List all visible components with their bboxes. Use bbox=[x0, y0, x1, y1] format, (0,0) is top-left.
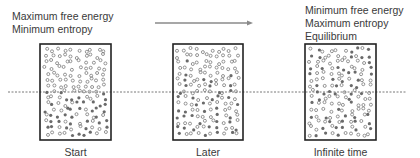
open-particle bbox=[196, 109, 199, 112]
filled-particle bbox=[89, 131, 92, 134]
open-particle bbox=[215, 66, 218, 69]
open-particle bbox=[209, 74, 212, 77]
open-particle bbox=[316, 65, 319, 68]
open-particle bbox=[182, 90, 185, 93]
open-particle bbox=[85, 67, 88, 70]
open-particle bbox=[348, 77, 351, 80]
open-particle bbox=[197, 132, 200, 135]
open-particle bbox=[341, 59, 344, 62]
filled-particle bbox=[69, 108, 72, 111]
filled-particle bbox=[177, 95, 180, 98]
filled-particle bbox=[354, 120, 357, 123]
time-arrow-head-icon bbox=[247, 21, 253, 26]
filled-particle bbox=[75, 100, 78, 103]
open-particle bbox=[196, 54, 199, 57]
open-particle bbox=[338, 72, 341, 75]
open-particle bbox=[58, 55, 61, 58]
open-particle bbox=[176, 49, 179, 52]
open-particle bbox=[72, 86, 75, 89]
open-particle bbox=[102, 114, 105, 117]
filled-particle bbox=[102, 92, 105, 95]
filled-particle bbox=[211, 98, 214, 101]
filled-particle bbox=[177, 109, 180, 112]
open-particle bbox=[47, 84, 50, 87]
filled-particle bbox=[336, 66, 339, 69]
filled-particle bbox=[49, 114, 52, 117]
open-particle bbox=[330, 110, 333, 113]
open-particle bbox=[355, 55, 358, 58]
open-particle bbox=[208, 102, 211, 105]
filled-particle bbox=[92, 100, 95, 103]
open-particle bbox=[78, 75, 81, 78]
open-particle bbox=[45, 119, 48, 122]
filled-particle bbox=[368, 61, 371, 64]
filled-particle bbox=[324, 132, 327, 135]
open-particle bbox=[209, 116, 212, 119]
open-particle bbox=[77, 85, 80, 88]
open-particle bbox=[178, 72, 181, 75]
open-particle bbox=[344, 132, 347, 135]
filled-particle bbox=[78, 107, 81, 110]
open-particle bbox=[224, 108, 227, 111]
filled-particle bbox=[228, 120, 231, 123]
open-particle bbox=[177, 60, 180, 63]
open-particle bbox=[178, 83, 181, 86]
diagram-canvas bbox=[0, 0, 420, 158]
filled-particle bbox=[321, 67, 324, 70]
open-particle bbox=[177, 101, 180, 104]
open-particle bbox=[216, 71, 219, 74]
filled-particle bbox=[325, 116, 328, 119]
filled-particle bbox=[184, 110, 187, 113]
open-particle bbox=[91, 119, 94, 122]
open-particle bbox=[86, 80, 89, 83]
open-particle bbox=[196, 115, 199, 118]
open-particle bbox=[50, 68, 53, 71]
filled-particle bbox=[84, 127, 87, 130]
open-particle bbox=[336, 115, 339, 118]
open-particle bbox=[363, 134, 366, 137]
open-particle bbox=[98, 67, 101, 70]
filled-particle bbox=[198, 122, 201, 125]
open-particle bbox=[79, 80, 82, 83]
open-particle bbox=[360, 73, 363, 76]
open-particle bbox=[322, 107, 325, 110]
open-particle bbox=[218, 63, 221, 66]
open-particle bbox=[73, 89, 76, 92]
filled-particle bbox=[183, 127, 186, 130]
filled-particle bbox=[368, 122, 371, 125]
filled-particle bbox=[322, 92, 325, 95]
open-particle bbox=[235, 132, 238, 135]
filled-particle bbox=[315, 134, 318, 137]
open-particle bbox=[328, 95, 331, 98]
filled-particle bbox=[105, 126, 108, 129]
open-particle bbox=[331, 84, 334, 87]
filled-particle bbox=[350, 93, 353, 96]
open-particle bbox=[177, 122, 180, 125]
open-particle bbox=[95, 132, 98, 135]
filled-particle bbox=[184, 73, 187, 76]
filled-particle bbox=[95, 106, 98, 109]
filled-particle bbox=[215, 120, 218, 123]
filled-particle bbox=[98, 121, 101, 124]
filled-particle bbox=[227, 96, 230, 99]
open-particle bbox=[182, 49, 185, 52]
open-particle bbox=[227, 77, 230, 80]
open-particle bbox=[310, 94, 313, 97]
open-particle bbox=[70, 68, 73, 71]
open-particle bbox=[364, 125, 367, 128]
open-particle bbox=[222, 54, 225, 57]
label-infinite-time: Infinite time bbox=[295, 146, 386, 158]
open-particle bbox=[221, 78, 224, 81]
filled-particle bbox=[78, 133, 81, 136]
open-particle bbox=[347, 60, 350, 63]
open-particle bbox=[64, 78, 67, 81]
filled-particle bbox=[328, 90, 331, 93]
open-particle bbox=[45, 113, 48, 116]
open-particle bbox=[369, 79, 372, 82]
open-particle bbox=[191, 108, 194, 111]
filled-particle bbox=[82, 134, 85, 137]
open-particle bbox=[189, 132, 192, 135]
open-particle bbox=[308, 60, 311, 63]
open-particle bbox=[45, 60, 48, 63]
filled-particle bbox=[350, 51, 353, 54]
